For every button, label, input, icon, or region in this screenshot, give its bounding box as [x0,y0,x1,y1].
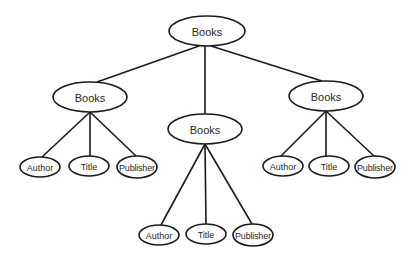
node-author_l: Author [20,157,60,177]
node-label: Publisher [357,163,393,173]
edge-root-to-books_l [97,46,199,82]
node-author_r: Author [263,156,303,176]
edge-books_l-to-pub_l [90,112,136,156]
node-pub_l: Publisher [117,156,157,178]
edge-books_l-to-author_l [42,112,90,157]
books-tree-diagram: BooksBooksBooksBooksAuthorTitlePublisher… [0,0,413,259]
node-label: Publisher [235,231,271,241]
node-label: Author [146,231,173,241]
node-label: Author [27,163,54,173]
node-pub_r: Publisher [355,156,395,178]
node-label: Publisher [119,163,155,173]
node-books_r: Books [289,81,363,111]
node-title_l: Title [69,156,109,176]
node-root: Books [169,16,245,46]
node-books_l: Books [53,82,127,112]
edge-books_r-to-author_r [281,111,326,156]
node-label: Author [270,162,297,172]
node-label: Title [321,162,338,172]
node-label: Title [81,162,98,172]
node-label: Books [311,91,342,103]
node-books_m: Books [168,114,242,144]
node-title_r: Title [309,156,349,176]
node-title_m: Title [186,224,226,244]
edge-books_m-to-title_m [205,144,206,224]
node-pub_m: Publisher [233,224,273,246]
node-label: Books [190,124,221,136]
edge-books_r-to-pub_r [326,111,374,156]
node-label: Title [198,230,215,240]
edge-books_m-to-author_m [161,144,205,225]
edge-books_m-to-pub_m [205,144,252,224]
node-label: Books [192,26,223,38]
edge-root-to-books_r [211,46,322,81]
node-label: Books [75,92,106,104]
node-author_m: Author [139,225,179,245]
nodes-layer: BooksBooksBooksBooksAuthorTitlePublisher… [20,16,395,246]
